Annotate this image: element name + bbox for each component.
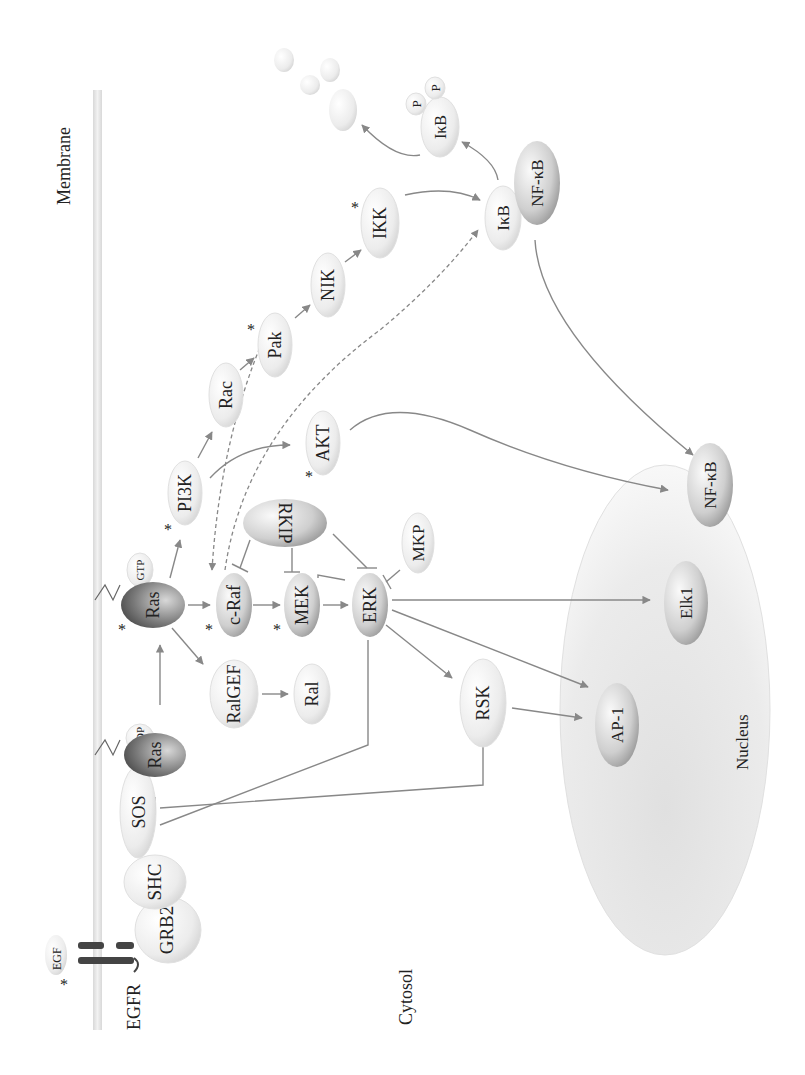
node-craf: c-Raf * [205, 573, 252, 638]
svg-text:Ras: Ras [143, 592, 163, 619]
node-pi3k: PI3K * [164, 461, 202, 538]
node-ras-gdp: GDP Ras [95, 724, 186, 777]
node-ikb-phosphorylated: IκB P P [406, 77, 459, 157]
node-sos: SOS [120, 766, 156, 858]
node-akt: AKT * [305, 411, 340, 485]
svg-text:RalGEF: RalGEF [224, 664, 244, 723]
node-shc: SHC [124, 855, 186, 909]
node-ikk: IKK * [351, 188, 399, 258]
svg-text:Pak: Pak [265, 332, 285, 359]
svg-text:IκB: IκB [494, 205, 513, 231]
svg-text:RSK: RSK [473, 685, 493, 720]
svg-text:NF-κB: NF-κB [528, 159, 547, 206]
svg-text:IKK: IKK [370, 207, 390, 239]
svg-text:*: * [305, 468, 313, 485]
svg-text:IκB: IκB [432, 115, 449, 139]
svg-text:*: * [247, 321, 255, 338]
svg-text:ERK: ERK [360, 587, 380, 623]
svg-text:Ral: Ral [302, 682, 322, 707]
cytosol-label: Cytosol [396, 969, 416, 1025]
node-elk1: Elk1 [664, 561, 708, 645]
membrane-label: Membrane [54, 127, 74, 205]
svg-text:P: P [428, 84, 443, 91]
node-mek: MEK * [273, 573, 320, 638]
svg-text:*: * [164, 521, 172, 538]
svg-text:SOS: SOS [129, 795, 149, 828]
nucleus-label: Nucleus [733, 714, 752, 770]
node-mkp: MKP [402, 513, 434, 573]
svg-text:NIK: NIK [318, 269, 338, 301]
node-rac: Rac [209, 363, 243, 427]
node-ap1: AP-1 [595, 683, 639, 767]
nucleus [560, 465, 770, 955]
node-ralgef: RalGEF [210, 660, 258, 728]
svg-text:P: P [409, 100, 424, 107]
membrane-bar [93, 90, 102, 1030]
svg-text:EGF: EGF [50, 947, 64, 970]
pathway-diagram: Membrane Nucleus Cytosol [0, 0, 805, 1075]
node-pak: Pak * [247, 313, 292, 377]
node-nik: NIK [311, 253, 345, 317]
svg-text:*: * [118, 621, 126, 638]
svg-text:*: * [205, 621, 213, 638]
node-rkip: RKIP [243, 499, 327, 547]
svg-text:SHC: SHC [144, 864, 165, 901]
node-ral: Ral [294, 664, 330, 724]
svg-text:GTP: GTP [134, 560, 146, 581]
svg-text:Rac: Rac [216, 381, 236, 409]
node-ras-gtp: GTP Ras * [95, 553, 185, 638]
svg-text:Ras: Ras [145, 742, 165, 769]
svg-text:PI3K: PI3K [175, 474, 195, 512]
svg-text:Elk1: Elk1 [677, 587, 696, 619]
svg-text:c-Raf: c-Raf [224, 585, 244, 625]
node-rsk: RSK [460, 659, 506, 747]
phospho-marker: * [60, 976, 68, 993]
svg-text:*: * [351, 199, 359, 216]
svg-text:GRB2: GRB2 [156, 906, 177, 955]
degradation-fragments [274, 48, 357, 131]
svg-text:AP-1: AP-1 [608, 707, 627, 743]
svg-text:*: * [273, 621, 281, 638]
egfr-label: EGFR [124, 984, 144, 1030]
svg-text:NF-κB: NF-κB [701, 461, 720, 508]
node-ikb-nfkb-complex: IκB NF-κB [485, 141, 560, 250]
node-nfkb-nuclear: NF-κB [687, 443, 733, 527]
svg-text:MKP: MKP [409, 525, 428, 562]
svg-text:AKT: AKT [313, 425, 333, 462]
node-erk: ERK [352, 573, 388, 637]
svg-text:RKIP: RKIP [275, 502, 295, 543]
svg-text:MEK: MEK [292, 585, 312, 625]
